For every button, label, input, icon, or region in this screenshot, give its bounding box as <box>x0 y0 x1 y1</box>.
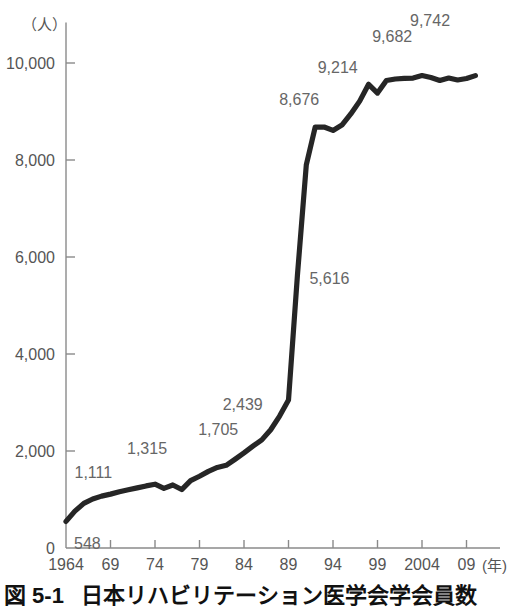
figure-caption: 図 5-1 日本リハビリテーション医学会学会員数 <box>0 574 515 611</box>
y-tick-label: 4,000 <box>15 346 55 363</box>
figure-number: 図 5-1 <box>0 577 81 609</box>
x-axis-unit-label: (年) <box>482 557 507 574</box>
data-point-label: 9,742 <box>410 12 450 29</box>
x-tick-label: 1964 <box>48 556 84 573</box>
figure-title: 日本リハビリテーション医学会学会員数 <box>81 577 477 609</box>
x-tick-label: 69 <box>102 556 120 573</box>
data-point-label: 1,705 <box>198 421 238 438</box>
data-point-label: 1,315 <box>127 440 167 457</box>
x-tick-label: 99 <box>369 556 387 573</box>
data-point-label: 5,616 <box>309 270 349 287</box>
data-point-label: 9,214 <box>318 59 358 76</box>
x-tick-label: 79 <box>191 556 209 573</box>
y-tick-label: 8,000 <box>15 152 55 169</box>
x-tick-label: 84 <box>235 556 253 573</box>
line-chart: 02,0004,0006,0008,00010,000 196469747984… <box>0 0 515 575</box>
data-point-label: 8,676 <box>279 91 319 108</box>
x-tick-label: 94 <box>324 556 342 573</box>
data-point-label: 1,111 <box>75 464 113 481</box>
y-axis: 02,0004,0006,0008,00010,000 <box>6 23 75 558</box>
y-tick-label: 2,000 <box>15 443 55 460</box>
x-tick-label: 09 <box>458 556 476 573</box>
y-tick-label: 0 <box>46 540 55 557</box>
figure-root: 02,0004,0006,0008,00010,000 196469747984… <box>0 0 515 611</box>
x-tick-label: 2004 <box>404 556 440 573</box>
y-axis-unit-label: （人） <box>22 16 67 33</box>
data-point-labels: 5481,1111,3151,7052,4395,6168,6769,2149,… <box>74 12 450 553</box>
data-point-label: 2,439 <box>223 396 263 413</box>
y-tick-label: 10,000 <box>6 55 55 72</box>
x-tick-label: 74 <box>146 556 164 573</box>
data-point-label: 9,682 <box>372 28 412 45</box>
x-tick-label: 89 <box>280 556 298 573</box>
data-point-label: 548 <box>74 535 101 552</box>
x-axis: 196469747984899499200409 <box>48 540 500 573</box>
y-tick-label: 6,000 <box>15 249 55 266</box>
